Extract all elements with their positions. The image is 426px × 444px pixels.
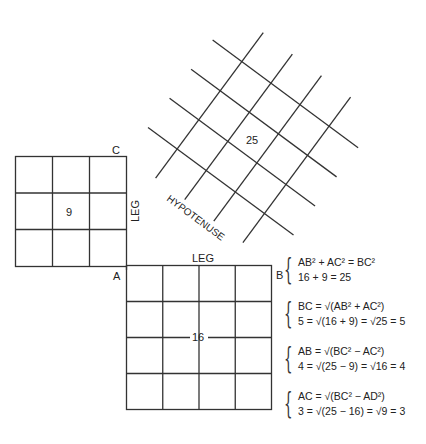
brace-icon: { [284,388,293,418]
vertex-label-C: C [112,144,120,156]
equation-line: 16 + 9 = 25 [298,271,351,283]
pythagorean-diagram: 9 16 25 C A B LEG LEG HYPOTENUSE [0,0,426,444]
equation-line: AB = √(BC² − AC²) [298,345,384,357]
leg-label-horizontal: LEG [192,252,214,264]
leg-label-vertical: LEG [129,200,141,222]
brace-icon: { [284,254,293,284]
vertex-label-B: B [276,269,283,281]
equation-line: 5 = √(16 + 9) = √25 = 5 [298,315,405,327]
equation-line: AB² + AC² = BC² [298,256,375,268]
brace-icon: { [284,298,293,328]
area-label-16: 16 [192,331,204,343]
brace-icon: { [284,343,293,373]
area-label-25: 25 [246,134,258,146]
hypotenuse-label: HYPOTENUSE [165,193,227,243]
equation-line: AC = √(BC² − AD²) [298,390,385,402]
equation-line: 4 = √(25 − 9) = √16 = 4 [298,360,405,372]
vertex-label-A: A [113,270,121,282]
equation-line: 3 = √(25 − 16) = √9 = 3 [298,405,405,417]
area-label-9: 9 [66,206,72,218]
equation-line: BC = √(AB² + AC²) [298,300,384,312]
